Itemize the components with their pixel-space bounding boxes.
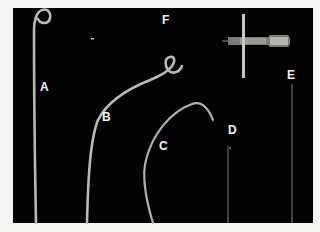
guidewire-d <box>228 146 231 223</box>
catheter-c <box>144 103 213 223</box>
devices-illustration <box>0 0 320 232</box>
label-b: B <box>102 111 111 123</box>
needle-f <box>222 14 290 78</box>
label-d: D <box>228 124 237 136</box>
label-a: A <box>40 81 49 93</box>
catheter-a <box>34 10 50 223</box>
label-c: C <box>159 140 168 152</box>
label-e: E <box>287 69 295 81</box>
label-f: F <box>162 14 169 26</box>
speck <box>91 38 94 40</box>
